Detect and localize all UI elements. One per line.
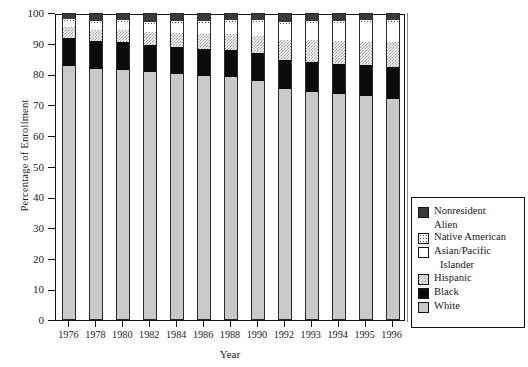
- legend-swatch-black-icon: [418, 288, 429, 299]
- x-tick: [95, 321, 96, 327]
- legend-item-hispanic[interactable]: Hispanic: [418, 272, 520, 285]
- y-tick: [48, 44, 55, 45]
- y-tick-label: 40: [0, 192, 44, 203]
- y-tick-label: 0: [0, 315, 44, 326]
- legend-item-asian-pacific[interactable]: Asian/Pacific: [418, 245, 520, 258]
- legend-swatch-asian-icon: [418, 247, 429, 258]
- y-tick: [48, 13, 55, 14]
- legend: NonresidentAlienNative AmericanAsian/Pac…: [411, 197, 525, 328]
- segment-asian-pacific-islander: [332, 23, 346, 40]
- segment-native-american: [359, 20, 373, 23]
- segment-nonresident-alien: [224, 13, 238, 20]
- segment-nonresident-alien: [359, 13, 373, 20]
- x-tick: [230, 321, 231, 327]
- segment-asian-pacific-islander: [89, 23, 103, 29]
- segment-black: [143, 45, 157, 72]
- segment-nonresident-alien: [305, 13, 319, 21]
- segment-black: [62, 38, 76, 67]
- x-tick: [257, 321, 258, 327]
- legend-swatch-nonres-icon: [418, 207, 429, 218]
- legend-label: Nonresident: [434, 205, 486, 217]
- segment-hispanic: [89, 30, 103, 41]
- segment-nonresident-alien: [170, 13, 184, 21]
- segment-black: [89, 41, 103, 69]
- segment-white: [332, 94, 346, 320]
- segment-white: [305, 92, 319, 320]
- y-tick: [48, 75, 55, 76]
- segment-native-american: [278, 22, 292, 24]
- segment-white: [197, 76, 211, 320]
- segment-native-american: [116, 20, 130, 22]
- segment-asian-pacific-islander: [305, 24, 319, 41]
- x-tick-label-1996: 1996: [372, 329, 412, 340]
- legend-item-white[interactable]: White: [418, 300, 520, 313]
- y-tick-label: 100: [0, 8, 44, 19]
- x-tick: [149, 321, 150, 327]
- y-tick: [48, 167, 55, 168]
- legend-item-black[interactable]: Black: [418, 286, 520, 299]
- segment-white: [359, 96, 373, 320]
- segment-hispanic: [224, 34, 238, 50]
- segment-nonresident-alien: [89, 13, 103, 21]
- bar-1978: [89, 13, 103, 320]
- legend-item-native-american[interactable]: Native American: [418, 231, 520, 244]
- y-tick: [48, 259, 55, 260]
- bar-1988: [224, 13, 238, 320]
- legend-label-continued: Islander: [418, 259, 520, 271]
- legend-item-nonresident[interactable]: Nonresident: [418, 205, 520, 218]
- segment-nonresident-alien: [386, 13, 400, 20]
- y-tick-label: 70: [0, 100, 44, 111]
- segment-black: [224, 50, 238, 77]
- segment-native-american: [386, 20, 400, 23]
- segment-nonresident-alien: [143, 13, 157, 22]
- segment-nonresident-alien: [278, 13, 292, 22]
- segment-asian-pacific-islander: [170, 23, 184, 33]
- y-tick: [48, 198, 55, 199]
- x-tick: [68, 321, 69, 327]
- legend-swatch-white-icon: [418, 302, 429, 313]
- bar-1990: [251, 13, 265, 320]
- y-tick-label: 50: [0, 162, 44, 173]
- segment-native-american: [62, 19, 76, 21]
- x-tick: [176, 321, 177, 327]
- legend-label: White: [434, 300, 460, 312]
- segment-white: [224, 77, 238, 320]
- y-tick: [48, 228, 55, 229]
- y-tick: [48, 136, 55, 137]
- x-tick: [338, 321, 339, 327]
- segment-hispanic: [143, 32, 157, 45]
- y-tick-label: 30: [0, 223, 44, 234]
- segment-asian-pacific-islander: [224, 22, 238, 34]
- bar-1980: [116, 13, 130, 320]
- legend-swatch-hisp-icon: [418, 274, 429, 285]
- x-tick: [122, 321, 123, 327]
- segment-asian-pacific-islander: [143, 24, 157, 32]
- legend-label: Black: [434, 286, 459, 298]
- segment-native-american: [332, 21, 346, 24]
- y-tick: [48, 320, 55, 321]
- segment-hispanic: [278, 40, 292, 60]
- segment-nonresident-alien: [197, 13, 211, 21]
- segment-native-american: [89, 21, 103, 23]
- segment-white: [143, 72, 157, 320]
- segment-native-american: [305, 21, 319, 23]
- segment-black: [359, 65, 373, 96]
- x-tick: [365, 321, 366, 327]
- y-tick: [48, 290, 55, 291]
- legend-label: Asian/Pacific: [434, 245, 491, 257]
- segment-hispanic: [386, 42, 400, 67]
- y-tick-label: 20: [0, 254, 44, 265]
- segment-native-american: [197, 21, 211, 23]
- segment-hispanic: [251, 36, 265, 53]
- segment-native-american: [170, 21, 184, 23]
- bar-1986: [197, 13, 211, 320]
- bar-1992: [278, 13, 292, 320]
- x-tick: [203, 321, 204, 327]
- y-tick-label: 90: [0, 39, 44, 50]
- segment-black: [116, 42, 130, 70]
- segment-white: [89, 69, 103, 320]
- segment-black: [278, 60, 292, 89]
- segment-nonresident-alien: [62, 13, 76, 19]
- segment-nonresident-alien: [116, 13, 130, 20]
- segment-hispanic: [359, 42, 373, 66]
